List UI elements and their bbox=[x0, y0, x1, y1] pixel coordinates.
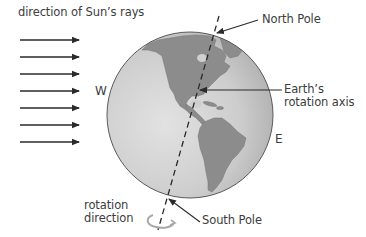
west-label: W bbox=[95, 85, 107, 98]
globe bbox=[107, 32, 273, 198]
hispaniola-landmass bbox=[217, 106, 224, 109]
rotation-axis-label-line2: rotation axis bbox=[284, 96, 355, 109]
east-label: E bbox=[275, 133, 282, 146]
south-pole-pointer bbox=[169, 199, 200, 222]
north-pole-label: North Pole bbox=[262, 13, 321, 26]
sun-ray-arrows bbox=[20, 40, 79, 142]
rotation-direction-label: rotation direction bbox=[84, 199, 134, 225]
sun-rays-label: direction of Sun’s rays bbox=[18, 6, 144, 19]
rotation-axis-label: Earth’s rotation axis bbox=[284, 83, 355, 109]
earth-rotation-diagram: direction of Sun’s rays North Pole Earth… bbox=[0, 0, 366, 237]
gulf-of-mexico bbox=[190, 100, 202, 108]
south-pole-label: South Pole bbox=[202, 214, 262, 227]
rotation-direction-label-line2: direction bbox=[84, 212, 134, 225]
north-pole-pointer bbox=[217, 20, 258, 33]
rotation-direction-icon bbox=[148, 215, 175, 228]
hudson-bay bbox=[197, 54, 207, 62]
diagram-canvas bbox=[0, 0, 366, 237]
